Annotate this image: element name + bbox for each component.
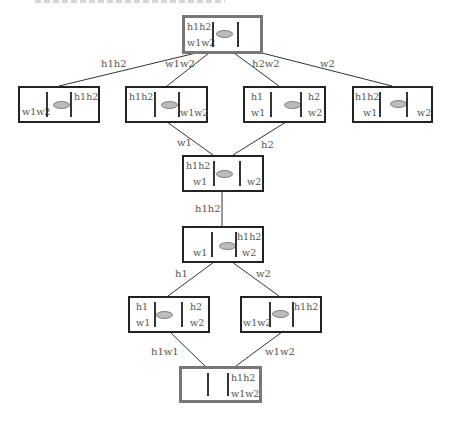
divider — [239, 161, 241, 186]
lattice-node: h1h2 w1 w2 — [182, 155, 264, 192]
oval-icon — [216, 170, 233, 178]
cell-text: h1 — [251, 92, 263, 102]
oval-icon — [161, 101, 178, 109]
divider — [181, 302, 183, 327]
cell-text: h1 — [136, 302, 148, 312]
cell-text: w1w2 — [180, 108, 208, 118]
divider — [212, 22, 214, 47]
lattice-node-top: h1h2 w1w2 — [182, 15, 263, 54]
divider — [300, 92, 302, 117]
divider — [70, 92, 72, 117]
oval-icon — [216, 30, 233, 38]
lattice-node: h1 w1 h2 w2 — [128, 296, 210, 333]
cell-text: w2 — [190, 318, 204, 328]
oval-icon — [390, 100, 407, 108]
lattice-node: w1w2 h1h2 — [240, 296, 322, 333]
edge-label: w1w2 — [165, 58, 195, 69]
cell-text: w2 — [308, 108, 322, 118]
edge-label: h2 — [261, 139, 274, 150]
edge-label: w1w2 — [265, 346, 295, 357]
edge-label: h1h2 — [195, 203, 221, 214]
lattice-node: w1 h1h2 w2 — [182, 226, 264, 263]
cell-text: h1h2 — [74, 92, 98, 102]
cell-text: w2 — [242, 248, 256, 258]
edge-n3-n5 — [233, 122, 286, 155]
cell-text: w2 — [247, 177, 261, 187]
divider — [270, 92, 272, 117]
cell-text: w1 — [363, 108, 377, 118]
edge-label: h1 — [175, 268, 188, 279]
cell-text: w1w2 — [231, 389, 259, 399]
cell-text: h1h2 — [186, 161, 210, 171]
cell-text: h1h2 — [294, 302, 318, 312]
divider — [213, 161, 215, 186]
oval-icon — [284, 101, 301, 109]
lattice-node: h1h2 w1 w2 — [352, 86, 433, 123]
edge-label: h1h2 — [101, 58, 127, 69]
lattice-node: h1 w1 h2 w2 — [243, 86, 326, 123]
edge-label: w2 — [320, 58, 335, 69]
cell-text: w1 — [193, 248, 207, 258]
cell-text: w1w2 — [243, 318, 271, 328]
cell-text: h2 — [190, 302, 202, 312]
divider — [154, 92, 156, 117]
oval-icon — [53, 101, 70, 109]
divider — [207, 373, 209, 396]
lattice-node: w1w2 h1h2 — [18, 86, 100, 123]
cell-text: w2 — [417, 108, 431, 118]
divider — [227, 373, 229, 396]
divider — [379, 92, 381, 117]
edge-label: w1 — [177, 137, 192, 148]
cell-text: h2 — [308, 92, 320, 102]
cell-text: h1h2 — [237, 232, 261, 242]
divider — [269, 302, 271, 327]
edge-label: w2 — [256, 268, 271, 279]
lattice-node-bottom: h1h2 w1w2 — [179, 366, 262, 403]
edge-label: h1w1 — [151, 346, 179, 357]
oval-icon — [219, 242, 236, 250]
cell-text: w1 — [136, 318, 150, 328]
cell-text: h1h2 — [187, 22, 211, 32]
cell-text: h1h2 — [231, 373, 255, 383]
lattice-node: h1h2 w1w2 — [125, 86, 208, 123]
divider — [211, 232, 213, 257]
divider — [46, 92, 48, 117]
edge-label: h2w2 — [252, 58, 280, 69]
cell-text: h1h2 — [129, 92, 153, 102]
divider — [237, 22, 239, 47]
edges-layer — [0, 0, 451, 422]
cell-text: w1 — [193, 177, 207, 187]
divider — [406, 92, 408, 117]
cell-text: w1 — [251, 108, 265, 118]
cell-text: h1h2 — [355, 92, 379, 102]
oval-icon — [156, 311, 173, 319]
oval-icon — [272, 310, 289, 318]
